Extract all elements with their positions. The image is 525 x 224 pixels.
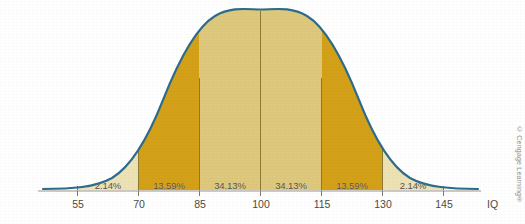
iq-distribution-figure: 2.14% 13.59% 34.13% 34.13% 13.59% 2.14% …	[0, 0, 525, 224]
tick-label-70: 70	[133, 198, 145, 210]
tick-label-130: 130	[374, 198, 392, 210]
normal-curve-chart	[0, 0, 525, 224]
band-label-inner-left: 34.13%	[214, 180, 246, 191]
tick-label-100: 100	[252, 198, 270, 210]
copyright-credit: © Cengage Learning®	[516, 126, 523, 203]
band-fill-mid-left	[138, 0, 199, 191]
x-axis-ticks	[78, 191, 444, 196]
band-label-mid-right: 13.59%	[336, 180, 368, 191]
band-fill-mid-right	[322, 0, 383, 191]
band-label-inner-right: 34.13%	[275, 180, 307, 191]
x-axis-label: IQ	[487, 198, 498, 210]
band-label-outer-right: 2.14%	[400, 180, 426, 191]
band-fill-inner-right	[261, 0, 322, 191]
band-fill-inner-left	[199, 0, 261, 191]
band-label-mid-left: 13.59%	[153, 180, 185, 191]
tick-label-55: 55	[72, 198, 84, 210]
tick-label-115: 115	[314, 198, 331, 210]
band-label-outer-left: 2.14%	[95, 180, 121, 191]
tick-label-145: 145	[435, 198, 453, 210]
tick-label-85: 85	[194, 198, 206, 210]
